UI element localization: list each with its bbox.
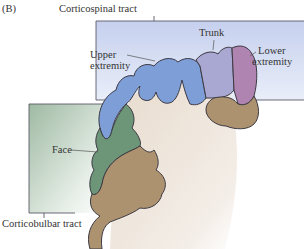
upper-extremity-label-line2: extremity bbox=[90, 60, 130, 71]
face-label: Face bbox=[52, 144, 72, 155]
diagram-graphics bbox=[0, 0, 304, 249]
panel-label: (B) bbox=[2, 3, 16, 14]
lower-extremity-label-line1: Lower bbox=[258, 45, 285, 56]
upper-extremity-label-line1: Upper bbox=[90, 49, 116, 60]
trunk-label: Trunk bbox=[199, 27, 224, 38]
motor-cortex-diagram: (B) Corticospinal tract Corticobulbar tr… bbox=[0, 0, 304, 249]
lower-extremity-label-line2: extremity bbox=[252, 56, 292, 67]
corticobulbar-tract-label: Corticobulbar tract bbox=[2, 218, 82, 229]
corticospinal-tract-label: Corticospinal tract bbox=[59, 3, 137, 14]
lower-extremity-region bbox=[232, 46, 257, 105]
